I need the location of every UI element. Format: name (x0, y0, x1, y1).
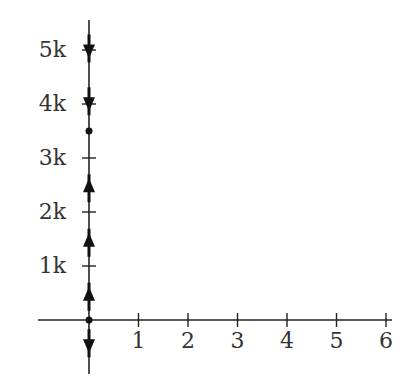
y-tick-label: 5k (39, 37, 67, 62)
x-tick-label: 4 (280, 328, 294, 353)
y-tick-label: 2k (39, 199, 67, 224)
equilibrium-dot (86, 128, 93, 135)
equilibrium-dot (86, 317, 93, 324)
x-tick-label: 1 (132, 328, 146, 353)
ticks: 1234561k2k3k4k5k (39, 37, 393, 353)
x-tick-label: 3 (231, 328, 245, 353)
phase-line-chart: 1234561k2k3k4k5k (0, 0, 412, 389)
x-tick-label: 2 (181, 328, 195, 353)
y-tick-label: 1k (39, 253, 67, 278)
y-tick-label: 4k (39, 91, 67, 116)
x-tick-label: 5 (330, 328, 344, 353)
y-tick-label: 3k (39, 145, 67, 170)
x-tick-label: 6 (379, 328, 393, 353)
